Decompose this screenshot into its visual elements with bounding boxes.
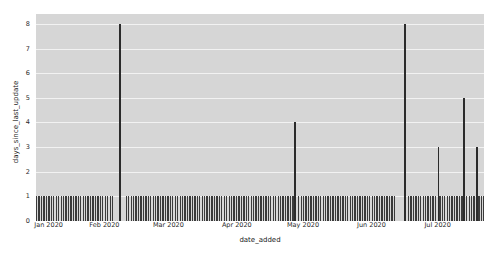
bar xyxy=(140,196,141,221)
bar xyxy=(107,196,108,221)
bar xyxy=(105,196,106,221)
bar xyxy=(332,196,333,221)
bar xyxy=(199,196,200,221)
y-tick-label-4: 4 xyxy=(26,119,30,126)
bar xyxy=(46,196,47,221)
bar xyxy=(442,196,443,221)
bar xyxy=(376,196,377,221)
gridline-y-2 xyxy=(36,172,484,173)
bar xyxy=(238,196,239,221)
spike-bar xyxy=(294,122,296,221)
bar xyxy=(367,196,368,221)
bar xyxy=(78,196,79,221)
bar xyxy=(483,196,484,221)
bar xyxy=(418,196,419,221)
bar xyxy=(430,196,431,221)
bar xyxy=(379,196,380,221)
bar xyxy=(282,196,283,221)
bar xyxy=(68,196,69,221)
bar xyxy=(172,196,173,221)
bar xyxy=(459,196,460,221)
bar xyxy=(100,196,101,221)
bar xyxy=(255,196,256,221)
bar xyxy=(340,196,341,221)
bar xyxy=(138,196,139,221)
bar xyxy=(80,196,81,221)
bar xyxy=(92,196,93,221)
bar xyxy=(133,196,134,221)
bar xyxy=(175,196,176,221)
bar xyxy=(48,196,49,221)
bar xyxy=(150,196,151,221)
bar xyxy=(202,196,203,221)
y-axis-label: days_since_last_update xyxy=(12,52,20,192)
bar xyxy=(287,196,288,221)
bar xyxy=(157,196,158,221)
bar xyxy=(423,196,424,221)
bar xyxy=(435,196,436,221)
bar xyxy=(335,196,336,221)
bar xyxy=(189,196,190,221)
bar xyxy=(53,196,54,221)
x-tick-label-3: Apr 2020 xyxy=(222,222,252,229)
bar xyxy=(386,196,387,221)
bar xyxy=(143,196,144,221)
bar xyxy=(83,196,84,221)
bar xyxy=(102,196,103,221)
bar xyxy=(369,196,370,221)
bar xyxy=(145,196,146,221)
bar xyxy=(216,196,217,221)
bar xyxy=(325,196,326,221)
gridline-y-3 xyxy=(36,147,484,148)
bar xyxy=(280,196,281,221)
y-tick-label-7: 7 xyxy=(26,45,30,52)
gridline-y-7 xyxy=(36,49,484,50)
bar xyxy=(290,196,291,221)
chart-figure: 012345678 days_since_last_update Jan 202… xyxy=(0,0,492,261)
bar xyxy=(226,196,227,221)
bar xyxy=(260,196,261,221)
bar xyxy=(381,196,382,221)
bar xyxy=(270,196,271,221)
bar xyxy=(253,196,254,221)
bar xyxy=(320,196,321,221)
bar xyxy=(337,196,338,221)
y-tick-label-6: 6 xyxy=(26,70,30,77)
bar xyxy=(310,196,311,221)
bar xyxy=(313,196,314,221)
bar xyxy=(345,196,346,221)
x-axis-label: date_added xyxy=(36,236,484,244)
bar xyxy=(236,196,237,221)
bar xyxy=(162,196,163,221)
bar xyxy=(449,196,450,221)
bar xyxy=(350,196,351,221)
bar xyxy=(224,196,225,221)
bar xyxy=(413,196,414,221)
x-axis-ticks: Jan 2020Feb 2020Mar 2020Apr 2020May 2020… xyxy=(36,222,484,234)
bar xyxy=(384,196,385,221)
bar xyxy=(415,196,416,221)
bar xyxy=(323,196,324,221)
spike-bar xyxy=(438,147,440,221)
bar xyxy=(352,196,353,221)
bar xyxy=(126,196,127,221)
bar xyxy=(187,196,188,221)
y-tick-label-8: 8 xyxy=(26,21,30,28)
bar xyxy=(364,196,365,221)
bar xyxy=(87,196,88,221)
bar xyxy=(135,196,136,221)
bar xyxy=(342,196,343,221)
spike-bar xyxy=(476,147,478,221)
bar xyxy=(481,196,482,221)
bar xyxy=(85,196,86,221)
bar xyxy=(211,196,212,221)
bar xyxy=(63,196,64,221)
bar xyxy=(420,196,421,221)
bar xyxy=(165,196,166,221)
bar xyxy=(275,196,276,221)
y-tick-label-3: 3 xyxy=(26,144,30,151)
plot-area xyxy=(36,14,484,221)
bar xyxy=(408,196,409,221)
bar xyxy=(427,196,428,221)
bar xyxy=(221,196,222,221)
